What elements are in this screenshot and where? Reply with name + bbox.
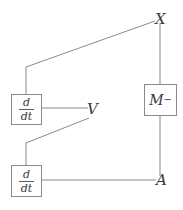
derivative-numerator-upper: d <box>21 97 32 109</box>
node-label-x: X <box>155 12 166 27</box>
derivative-numerator-lower: d <box>21 169 32 181</box>
operator-box-m-minus[interactable]: M− <box>144 84 177 116</box>
node-label-a: A <box>156 173 167 188</box>
derivative-box-upper[interactable]: d dt <box>11 94 42 125</box>
derivative-denominator-lower: dt <box>19 182 34 194</box>
edge-x-to-ddt-upper <box>26 21 155 94</box>
operator-box-m-superscript: − <box>163 94 171 105</box>
edge-v-to-ddt-lower <box>26 118 89 165</box>
diagram-canvas: X M− A V d dt d dt <box>0 0 183 210</box>
operator-box-m-label: M <box>149 92 163 108</box>
derivative-denominator-upper: dt <box>19 110 34 122</box>
derivative-fraction-upper: d dt <box>19 97 34 122</box>
derivative-box-lower[interactable]: d dt <box>11 165 42 197</box>
derivative-fraction-lower: d dt <box>19 169 34 194</box>
node-label-v: V <box>87 102 98 117</box>
